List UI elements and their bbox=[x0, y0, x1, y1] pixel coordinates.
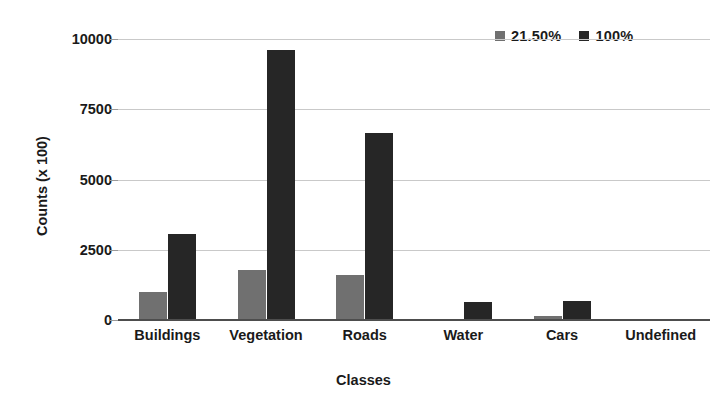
bar-group-buildings bbox=[118, 39, 217, 320]
bar-group-vegetation bbox=[217, 39, 316, 320]
bar-vegetation-series-1[interactable] bbox=[267, 50, 295, 320]
bar-chart: 21.50% 100% Counts (x 100) 0250050007500… bbox=[0, 0, 727, 415]
bar-buildings-series-1[interactable] bbox=[168, 234, 196, 320]
x-tick-label-water: Water bbox=[414, 327, 513, 343]
y-tick-10000 bbox=[110, 39, 118, 40]
bar-water-series-1[interactable] bbox=[464, 302, 492, 320]
x-tick-label-vegetation: Vegetation bbox=[217, 327, 316, 343]
y-tick-label-10000: 10000 bbox=[8, 31, 112, 47]
bar-cars-series-1[interactable] bbox=[563, 301, 591, 320]
x-axis-title: Classes bbox=[0, 372, 727, 388]
bar-group-water bbox=[414, 39, 513, 320]
bar-roads-series-1[interactable] bbox=[365, 133, 393, 320]
y-tick-7500 bbox=[110, 109, 118, 110]
y-tick-0 bbox=[110, 320, 118, 321]
x-tick-label-cars: Cars bbox=[513, 327, 612, 343]
y-tick-label-7500: 7500 bbox=[8, 101, 112, 117]
bar-roads-series-0[interactable] bbox=[336, 275, 364, 320]
x-axis-line bbox=[118, 319, 710, 321]
y-tick-label-0: 0 bbox=[8, 312, 112, 328]
bar-buildings-series-0[interactable] bbox=[139, 292, 167, 320]
y-tick-label-2500: 2500 bbox=[8, 242, 112, 258]
y-tick-5000 bbox=[110, 180, 118, 181]
y-tick-2500 bbox=[110, 250, 118, 251]
bar-group-undefined bbox=[611, 39, 710, 320]
bar-vegetation-series-0[interactable] bbox=[238, 270, 266, 320]
y-tick-label-5000: 5000 bbox=[8, 172, 112, 188]
x-tick-label-buildings: Buildings bbox=[118, 327, 217, 343]
plot-area bbox=[118, 39, 710, 320]
x-tick-label-undefined: Undefined bbox=[611, 327, 710, 343]
x-tick-label-roads: Roads bbox=[315, 327, 414, 343]
y-axis-tick-labels: 025005000750010000 bbox=[0, 0, 112, 415]
bar-groups bbox=[118, 39, 710, 320]
x-axis-tick-labels: BuildingsVegetationRoadsWaterCarsUndefin… bbox=[118, 327, 710, 343]
bar-group-roads bbox=[315, 39, 414, 320]
bar-group-cars bbox=[513, 39, 612, 320]
